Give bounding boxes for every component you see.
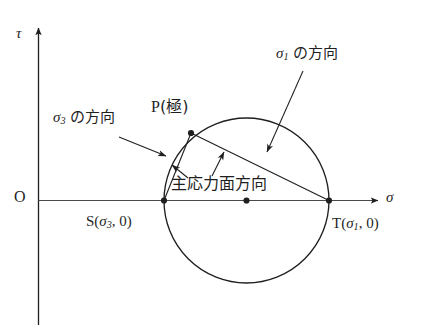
sigma-axis-label: σ	[386, 190, 393, 205]
pole-letter: P	[151, 98, 160, 115]
t-letter: T(	[332, 215, 346, 231]
t-sigma: σ	[346, 215, 353, 231]
sigma1-direction-text: の方向	[289, 44, 339, 62]
s-tail: , 0)	[112, 213, 132, 229]
principal-plane-direction-label: 主応力面方向	[171, 176, 267, 192]
point-p-marker	[188, 130, 194, 136]
s-point-label: S(σ3, 0)	[86, 214, 132, 230]
tau-axis-label: τ	[16, 26, 21, 41]
point-s-marker	[161, 197, 167, 203]
sigma3-direction-pointer	[119, 137, 166, 156]
sigma1-direction-pointer	[267, 71, 303, 152]
point-center-marker	[243, 197, 249, 203]
s-letter: S(	[86, 213, 99, 229]
sigma3-direction-text: の方向	[66, 108, 116, 126]
pole-paren-text: (極)	[160, 97, 188, 116]
sigma1-direction-label: σ1 の方向	[276, 46, 338, 62]
point-t-marker	[326, 197, 332, 203]
pole-point-label: P(極)	[151, 99, 188, 115]
t-point-label: T(σ1, 0)	[332, 216, 379, 232]
mohr-circle-canvas	[0, 0, 421, 331]
sigma3-direction-label: σ3 の方向	[53, 110, 115, 126]
s-sigma: σ	[99, 213, 106, 229]
plane-direction-pointer-right	[212, 152, 224, 176]
origin-label: O	[14, 189, 26, 205]
mohr-circle-figure: τ σ O P(極) S(σ3, 0) T(σ1, 0) σ1 の方向 σ3 の…	[0, 0, 421, 331]
t-tail: , 0)	[359, 215, 379, 231]
